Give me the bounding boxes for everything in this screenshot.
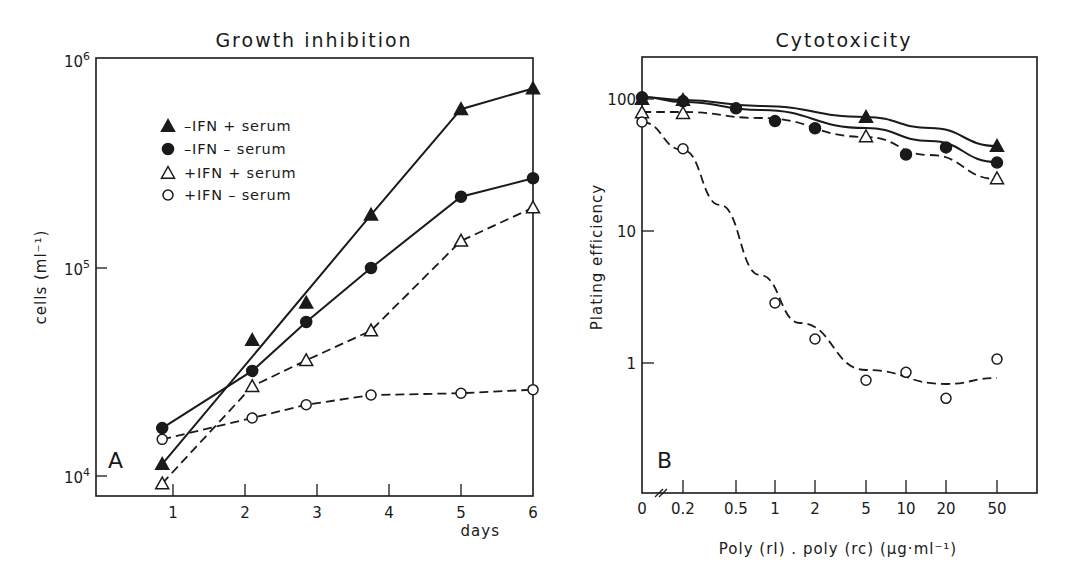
filled-circle-marker-icon xyxy=(731,103,742,114)
panel-b-letter: B xyxy=(657,448,672,473)
x-tick-label: 0 xyxy=(637,500,647,518)
panel-a-title: Growth inhibition xyxy=(215,29,412,51)
legend-label: –IFN + serum xyxy=(184,118,291,134)
panel-a-x-label: days xyxy=(461,522,500,540)
legend-item: –IFN + serum xyxy=(162,118,292,134)
legend-item: +IFN + serum xyxy=(162,165,297,181)
open-circle-marker-icon xyxy=(157,434,167,444)
legend-label: +IFN + serum xyxy=(184,165,296,181)
open-circle-marker-icon xyxy=(901,367,911,377)
open-triangle-marker-icon xyxy=(991,172,1004,184)
filled-circle-marker-icon xyxy=(366,263,377,274)
open-circle-marker-icon xyxy=(770,298,780,308)
open-circle-marker-icon xyxy=(810,334,820,344)
x-tick-label: 5 xyxy=(861,500,871,518)
series-open-circle xyxy=(157,385,538,445)
open-circle-marker-icon xyxy=(366,390,376,400)
series-filled-circle xyxy=(157,173,539,434)
panel-b-y-axis: 110100 xyxy=(607,91,654,373)
open-circle-marker-icon xyxy=(301,400,311,410)
x-tick-label: 10 xyxy=(896,500,915,518)
filled-circle-marker-icon xyxy=(992,157,1003,168)
panel-a-y-label: cells (ml⁻¹) xyxy=(32,230,50,325)
open-circle-marker-icon xyxy=(456,388,466,398)
filled-circle-marker-icon xyxy=(163,144,174,155)
x-tick-label: 2 xyxy=(810,500,820,518)
y-tick-label: 106 xyxy=(64,50,90,71)
open-circle-marker-icon xyxy=(861,375,871,385)
y-tick-label: 105 xyxy=(64,258,90,279)
filled-circle-marker-icon xyxy=(770,116,781,127)
open-triangle-marker-icon xyxy=(246,380,259,392)
open-triangle-marker-icon xyxy=(162,167,175,179)
x-tick-label: 1 xyxy=(168,504,178,522)
panel-a-legend: –IFN + serum–IFN – serum+IFN + serum+IFN… xyxy=(162,118,297,203)
x-tick-label: 2 xyxy=(240,504,250,522)
legend-item: +IFN – serum xyxy=(163,187,291,203)
filled-circle-marker-icon xyxy=(247,365,258,376)
open-triangle-marker-icon xyxy=(455,234,468,246)
open-circle-marker-icon xyxy=(941,393,951,403)
panel-b-x-label: Poly (rI) . poly (rc) (µg·ml⁻¹) xyxy=(719,540,957,558)
figure: Growth inhibition 104105106 123456 days … xyxy=(0,0,1078,574)
panel-b-cytotoxicity: Cytotoxicity 110100 00.20.5125102050 Pol… xyxy=(588,29,1037,558)
x-tick-label: 0.5 xyxy=(724,500,748,518)
open-circle-marker-icon xyxy=(678,144,688,154)
open-circle-marker-icon xyxy=(528,385,538,395)
filled-circle-marker-icon xyxy=(157,423,168,434)
legend-label: –IFN – serum xyxy=(184,141,287,157)
panel-b-series xyxy=(636,92,1004,404)
filled-circle-marker-icon xyxy=(301,317,312,328)
legend-label: +IFN – serum xyxy=(184,187,291,203)
filled-triangle-marker-icon xyxy=(162,120,175,132)
panel-b-title: Cytotoxicity xyxy=(775,29,912,51)
series-open-circle xyxy=(637,117,1002,403)
filled-circle-marker-icon xyxy=(637,92,648,103)
open-triangle-marker-icon xyxy=(860,130,873,142)
x-tick-label: 1 xyxy=(770,500,780,518)
panel-a-growth-inhibition: Growth inhibition 104105106 123456 days … xyxy=(32,29,540,540)
open-circle-marker-icon xyxy=(247,413,257,423)
x-tick-label: 3 xyxy=(312,504,322,522)
legend-item: –IFN – serum xyxy=(163,141,287,157)
filled-circle-marker-icon xyxy=(528,173,539,184)
filled-circle-marker-icon xyxy=(678,96,689,107)
x-tick-label: 4 xyxy=(384,504,394,522)
filled-triangle-marker-icon xyxy=(246,334,259,346)
y-tick-label: 10 xyxy=(617,223,636,241)
y-tick-label: 1 xyxy=(626,355,636,373)
open-circle-marker-icon xyxy=(163,190,173,200)
filled-circle-marker-icon xyxy=(456,191,467,202)
filled-circle-marker-icon xyxy=(941,142,952,153)
open-triangle-marker-icon xyxy=(300,354,313,366)
panel-a-letter: A xyxy=(108,448,123,473)
panel-a-y-axis: 104105106 xyxy=(64,50,107,487)
x-tick-label: 6 xyxy=(528,504,538,522)
x-tick-label: 50 xyxy=(987,500,1006,518)
open-circle-marker-icon xyxy=(637,117,647,127)
panel-b-y-label: Plating efficiency xyxy=(588,184,606,330)
panel-a-x-axis: 123456 xyxy=(168,484,538,522)
x-tick-label: 20 xyxy=(936,500,955,518)
x-tick-label: 5 xyxy=(456,504,466,522)
panel-b-plot-frame xyxy=(642,57,1037,493)
open-circle-marker-icon xyxy=(992,354,1002,364)
open-triangle-marker-icon xyxy=(527,201,540,213)
filled-triangle-marker-icon xyxy=(527,82,540,94)
x-tick-label: 0.2 xyxy=(671,500,695,518)
panel-b-x-axis: 00.20.5125102050 xyxy=(637,480,1006,518)
y-tick-label: 100 xyxy=(607,91,636,109)
y-tick-label: 104 xyxy=(64,466,90,487)
